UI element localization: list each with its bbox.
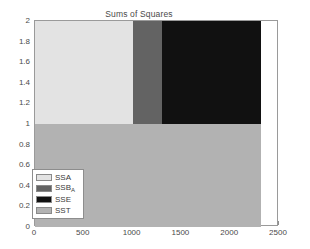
legend: SSA SSBA SSE SST	[32, 169, 84, 219]
bar-segment-sse	[162, 21, 262, 124]
bar-segment-ssa	[35, 21, 133, 124]
x-tick-mark	[278, 221, 279, 225]
bar-segment-ssb-a	[133, 21, 162, 124]
y-tick-label: 0.2	[19, 201, 30, 210]
legend-swatch-sst	[36, 207, 52, 214]
legend-label-ssb-a: SSBA	[55, 183, 75, 195]
y-tick-label: 1.8	[19, 36, 30, 45]
figure: Sums of Squares 2 1.8 1.6 1.4 1.2 1 0.8 …	[0, 0, 310, 249]
legend-swatch-sse	[36, 196, 52, 203]
y-tick-label: 1.2	[19, 98, 30, 107]
x-tick-label: 500	[76, 228, 89, 237]
x-tick-label: 1500	[171, 228, 189, 237]
y-tick-label: 1	[26, 119, 30, 128]
legend-item-sst: SST	[35, 205, 81, 216]
x-tick-label: 2000	[220, 228, 238, 237]
x-tick-label: 1000	[123, 228, 141, 237]
legend-item-sse: SSE	[35, 194, 81, 205]
y-tick-label: 0.4	[19, 180, 30, 189]
legend-label-ssa: SSA	[55, 173, 71, 182]
legend-label-sst: SST	[55, 206, 71, 215]
legend-label-sse: SSE	[55, 195, 71, 204]
legend-label-ssb-subscript: A	[71, 187, 75, 193]
legend-item-ssa: SSA	[35, 172, 81, 183]
legend-swatch-ssa	[36, 174, 52, 181]
chart-title: Sums of Squares	[0, 9, 278, 19]
x-tick-label: 2500	[269, 228, 287, 237]
x-tick-label: 0	[32, 228, 36, 237]
y-tick-label: 1.6	[19, 57, 30, 66]
y-tick-label: 0.8	[19, 139, 30, 148]
y-tick-label: 0	[26, 222, 30, 231]
legend-item-ssb-a: SSBA	[35, 183, 81, 194]
y-tick-label: 1.4	[19, 77, 30, 86]
legend-label-ssb-base: SSB	[55, 183, 71, 192]
y-tick-label: 2	[26, 16, 30, 25]
legend-swatch-ssb-a	[36, 185, 52, 192]
y-tick-label: 0.6	[19, 160, 30, 169]
